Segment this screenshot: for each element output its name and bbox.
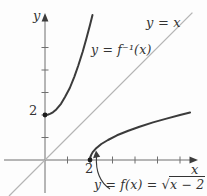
- f-curve-label-radicand: x − 2: [169, 176, 205, 192]
- f-curve: [90, 113, 190, 161]
- x-tick-label-2: 2: [85, 162, 93, 175]
- point-dot: [43, 113, 48, 118]
- f-inverse-curve: [45, 15, 93, 115]
- y-tick-label-2: 2: [29, 104, 37, 117]
- y-axis-arrowhead-icon: [42, 13, 49, 22]
- identity-line-label: y = x: [146, 16, 181, 29]
- y-axis: [42, 13, 49, 193]
- x-axis: [4, 157, 198, 164]
- function-inverse-figure: y x 2 2 y = f⁻¹(x) y = x y = f(x) = √x −…: [0, 0, 207, 196]
- y-axis-label: y: [33, 9, 41, 22]
- f-curve-label-prefix: y = f(x) =: [94, 177, 162, 192]
- inverse-curve-label: y = f⁻¹(x): [91, 44, 152, 57]
- f-curve-label: y = f(x) = √x − 2: [94, 178, 205, 192]
- x-axis-label: x: [191, 163, 199, 176]
